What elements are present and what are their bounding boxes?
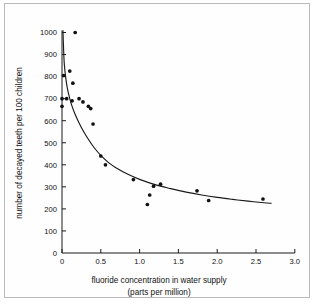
data-point [71,81,75,85]
y-tick-label: 700 [44,94,57,103]
plot-svg: 00.51.01.52.02.53.0 01002003004005006007… [0,0,318,305]
y-tick-label: 100 [44,227,57,236]
y-tick-label: 900 [44,50,57,59]
data-point [62,74,66,78]
data-point [132,178,136,182]
x-tick-label: 2.5 [251,257,262,266]
data-point [60,105,64,109]
data-point [152,184,156,188]
data-point [261,197,265,201]
data-point [146,203,150,207]
data-point [73,31,77,35]
data-point [148,193,152,197]
data-point [77,97,81,101]
y-tick-label: 600 [44,117,57,126]
data-point [104,163,108,167]
x-tick-label: 2.0 [212,257,223,266]
data-point [68,69,72,73]
scatter-chart: 00.51.01.52.02.53.0 01002003004005006007… [0,0,318,305]
x-axis-ticks: 00.51.01.52.02.53.0 [60,249,300,266]
y-tick-label: 0 [53,249,57,258]
x-tick-label: 1.5 [173,257,184,266]
data-point [91,122,95,126]
x-tick-label: 3.0 [290,257,301,266]
y-axis-title: number of decayed teeth per 100 children [15,67,24,219]
y-tick-label: 400 [44,161,57,170]
data-point [89,107,93,111]
x-axis-title: fluoride concentration in water supply [91,276,227,285]
y-tick-label: 800 [44,72,57,81]
y-tick-label: 200 [44,205,57,214]
data-point [81,100,85,104]
data-point [207,199,211,203]
x-tick-label: 0 [60,257,64,266]
x-axis-title-units: (parts per million) [127,288,191,297]
data-point [99,154,103,158]
data-point [159,182,163,186]
data-point [65,97,69,101]
fitted-curve [63,30,272,203]
data-point [60,97,64,101]
data-point [70,99,74,103]
y-tick-label: 300 [44,183,57,192]
x-tick-label: 0.5 [96,257,107,266]
x-tick-label: 1.0 [134,257,145,266]
data-point [195,189,199,193]
data-points [60,31,265,207]
y-tick-label: 1000 [40,28,57,37]
y-tick-label: 500 [44,139,57,148]
